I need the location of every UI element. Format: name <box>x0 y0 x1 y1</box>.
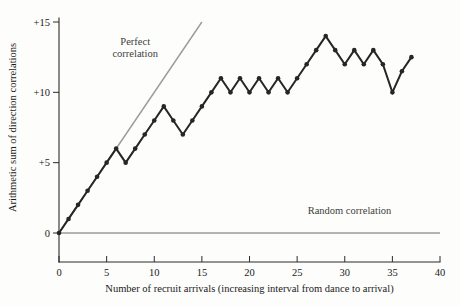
annotation-random-correlation: Random correlation <box>308 205 392 216</box>
data-point-2 <box>76 203 81 208</box>
data-point-23 <box>276 76 281 81</box>
data-series-line <box>59 36 411 233</box>
data-point-18 <box>228 90 233 95</box>
x-tick-label-40: 40 <box>435 267 446 278</box>
data-point-15 <box>200 104 205 109</box>
data-point-14 <box>190 118 195 123</box>
y-tick-label-0: 0 <box>45 228 50 239</box>
x-tick-label-35: 35 <box>387 267 398 278</box>
data-point-4 <box>95 174 100 179</box>
correlation-line-chart: 0+5+10+150510152025303540 Arithmetic sum… <box>0 0 460 306</box>
data-point-5 <box>104 160 109 165</box>
data-point-19 <box>238 76 243 81</box>
data-point-30 <box>342 62 347 67</box>
data-point-16 <box>209 90 214 95</box>
data-point-21 <box>257 76 262 81</box>
data-point-0 <box>57 231 62 236</box>
data-point-36 <box>400 69 405 74</box>
data-point-10 <box>152 118 157 123</box>
data-point-11 <box>161 104 166 109</box>
data-point-35 <box>390 90 395 95</box>
data-point-7 <box>123 160 128 165</box>
annotation-perfect: Perfectcorrelation <box>112 36 158 59</box>
data-point-29 <box>333 48 338 53</box>
data-point-27 <box>314 48 319 53</box>
data-point-26 <box>304 62 309 67</box>
chart-figure: 0+5+10+150510152025303540 Arithmetic sum… <box>0 0 460 306</box>
data-point-13 <box>181 132 186 137</box>
data-point-34 <box>381 62 386 67</box>
data-point-28 <box>323 34 328 39</box>
x-tick-label-25: 25 <box>292 267 303 278</box>
x-tick-label-20: 20 <box>244 267 255 278</box>
x-tick-label-10: 10 <box>149 267 160 278</box>
y-tick-label-5: +5 <box>39 157 50 168</box>
annotation-line-2: correlation <box>112 48 158 59</box>
data-point-37 <box>409 55 414 60</box>
data-point-25 <box>295 76 300 81</box>
data-point-6 <box>114 146 119 151</box>
data-point-20 <box>247 90 252 95</box>
x-tick-label-0: 0 <box>56 267 61 278</box>
data-point-12 <box>171 118 176 123</box>
y-axis-title: Arithmetic sum of direction correlations <box>7 43 18 212</box>
data-point-22 <box>266 90 271 95</box>
x-tick-label-15: 15 <box>197 267 208 278</box>
data-point-32 <box>362 62 367 67</box>
annotation-line-1: Perfect <box>120 36 150 47</box>
data-point-8 <box>133 146 138 151</box>
data-point-33 <box>371 48 376 53</box>
annotation-line-1: Random correlation <box>308 205 392 216</box>
data-point-24 <box>285 90 290 95</box>
data-point-31 <box>352 48 357 53</box>
axes-group: 0+5+10+150510152025303540 <box>34 17 446 278</box>
y-tick-label-15: +15 <box>34 17 50 28</box>
x-axis-title: Number of recruit arrivals (increasing i… <box>105 283 394 295</box>
y-tick-label-10: +10 <box>34 87 50 98</box>
x-tick-label-30: 30 <box>340 267 351 278</box>
data-point-17 <box>219 76 224 81</box>
labels-group: Arithmetic sum of direction correlations… <box>7 36 394 295</box>
data-point-3 <box>85 189 90 194</box>
data-point-9 <box>142 132 147 137</box>
data-point-1 <box>66 217 71 222</box>
x-tick-label-5: 5 <box>104 267 109 278</box>
